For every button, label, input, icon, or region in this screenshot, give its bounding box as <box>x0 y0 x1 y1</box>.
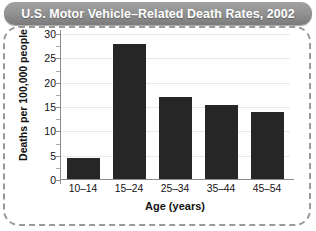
y-axis-label: Deaths per 100,000 people <box>17 20 29 170</box>
bar-series <box>60 34 290 180</box>
chart-title-bar: U.S. Motor Vehicle–Related Death Rates, … <box>4 2 312 25</box>
chart-figure: U.S. Motor Vehicle–Related Death Rates, … <box>0 0 316 231</box>
x-axis-line <box>60 179 294 180</box>
x-tick-label: 25–34 <box>152 183 198 194</box>
chart-area: Deaths per 100,000 people 30 25 20 15 10… <box>0 26 316 231</box>
x-tick-label: 15–24 <box>106 183 152 194</box>
bar-25-34 <box>159 97 192 180</box>
plot-region <box>60 34 290 180</box>
x-tick-label: 35–44 <box>198 183 244 194</box>
bar-15-24 <box>113 44 146 180</box>
x-axis-tick-labels: 10–14 15–24 25–34 35–44 45–54 <box>60 183 290 194</box>
y-axis-tick <box>55 180 61 181</box>
bar-slot <box>198 34 244 180</box>
bar-slot <box>152 34 198 180</box>
y-axis-tick-labels: 30 25 20 15 10 5 0 <box>30 34 56 180</box>
x-axis-label: Age (years) <box>60 200 290 212</box>
bar-45-54 <box>251 112 284 180</box>
x-tick-label: 10–14 <box>60 183 106 194</box>
bar-slot <box>106 34 152 180</box>
x-tick-label: 45–54 <box>244 183 290 194</box>
page-title: U.S. Motor Vehicle–Related Death Rates, … <box>21 7 295 21</box>
bar-slot <box>244 34 290 180</box>
bar-10-14 <box>67 158 100 180</box>
bar-35-44 <box>205 105 238 180</box>
bar-slot <box>60 34 106 180</box>
